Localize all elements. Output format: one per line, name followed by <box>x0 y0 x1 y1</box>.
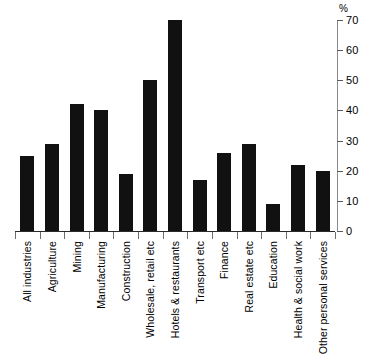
bar <box>266 204 280 231</box>
category-label: Agriculture <box>46 241 57 292</box>
bar-cell <box>261 20 286 231</box>
category-label-cell: Wholesale, retail etc <box>138 241 163 361</box>
category-label-cell: Transport etc <box>187 241 212 361</box>
bar <box>316 171 330 231</box>
bar-cell <box>15 20 40 231</box>
y-axis-tick <box>337 50 343 51</box>
y-axis-unit-label: % <box>339 4 348 14</box>
category-label: Hotels & restaurants <box>169 241 180 338</box>
y-axis-tick-label: 0 <box>346 226 352 237</box>
category-label-cell: Real estate etc <box>237 241 262 361</box>
bar-cell <box>187 20 212 231</box>
plot-area <box>15 20 335 231</box>
x-axis-tick <box>237 232 238 239</box>
bar-cell <box>113 20 138 231</box>
y-axis-tick <box>337 110 343 111</box>
bar-cell <box>138 20 163 231</box>
category-label-cell: Hotels & restaurants <box>163 241 188 361</box>
bar <box>242 144 256 231</box>
x-axis-tick <box>335 232 336 239</box>
y-axis-tick <box>337 141 343 142</box>
bar <box>45 144 59 231</box>
bar <box>119 174 133 231</box>
bar <box>193 180 207 231</box>
x-axis-tick <box>15 232 16 239</box>
y-axis-tick <box>337 231 343 232</box>
x-axis-tick <box>163 232 164 239</box>
bar <box>70 104 84 231</box>
y-axis-tick <box>337 20 343 21</box>
bar <box>217 153 231 231</box>
y-axis-tick <box>337 80 343 81</box>
y-axis-tick <box>337 201 343 202</box>
x-axis-category-labels: All industriesAgricultureMiningManufactu… <box>15 241 335 361</box>
category-label-cell: Education <box>261 241 286 361</box>
y-axis-tick-label: 70 <box>346 15 359 26</box>
x-axis-tick <box>40 232 41 239</box>
category-label: Mining <box>71 241 82 273</box>
bar-series <box>15 20 335 231</box>
y-axis-tick-label: 20 <box>346 166 359 177</box>
category-label: Other personal services <box>317 241 328 354</box>
y-axis-tick-label: 10 <box>346 196 359 207</box>
x-axis-tick <box>261 232 262 239</box>
x-axis-tick <box>212 232 213 239</box>
bar-cell <box>89 20 114 231</box>
bar <box>143 80 157 231</box>
category-label: Manufacturing <box>96 241 107 309</box>
category-label: Health & social work <box>293 241 304 338</box>
x-axis-tick <box>89 232 90 239</box>
category-label-cell: Construction <box>113 241 138 361</box>
bar-chart: 010203040506070 % All industriesAgricult… <box>0 0 375 361</box>
bar-cell <box>236 20 261 231</box>
category-label-cell: Agriculture <box>40 241 65 361</box>
bar-cell <box>286 20 311 231</box>
x-axis-tick <box>187 232 188 239</box>
y-axis-tick-label: 40 <box>346 105 359 116</box>
x-axis-tick <box>138 232 139 239</box>
category-label: Wholesale, retail etc <box>145 241 156 338</box>
bar-cell <box>64 20 89 231</box>
x-axis-tick <box>310 232 311 239</box>
category-label: All industries <box>22 241 33 302</box>
bar-cell <box>163 20 188 231</box>
bar <box>94 110 108 231</box>
y-axis-tick-label: 50 <box>346 75 359 86</box>
category-label-cell: All industries <box>15 241 40 361</box>
category-label: Education <box>268 241 279 289</box>
x-axis-tick <box>286 232 287 239</box>
y-axis-tick-label: 60 <box>346 45 359 56</box>
bar-cell <box>212 20 237 231</box>
category-label-cell: Finance <box>212 241 237 361</box>
bar <box>168 20 182 231</box>
y-axis-tick-label: 30 <box>346 136 359 147</box>
bar-cell <box>40 20 65 231</box>
bar-cell <box>310 20 335 231</box>
category-label-cell: Other personal services <box>310 241 335 361</box>
category-label: Real estate etc <box>243 241 254 313</box>
x-axis-ticks <box>15 232 335 239</box>
category-label: Finance <box>219 241 230 279</box>
y-axis-tick <box>337 171 343 172</box>
category-label: Transport etc <box>194 241 205 304</box>
category-label-cell: Mining <box>64 241 89 361</box>
x-axis-tick <box>113 232 114 239</box>
category-label: Construction <box>120 241 131 301</box>
x-axis-tick <box>64 232 65 239</box>
category-label-cell: Health & social work <box>286 241 311 361</box>
category-label-cell: Manufacturing <box>89 241 114 361</box>
bar <box>291 165 305 231</box>
bar <box>20 156 34 231</box>
